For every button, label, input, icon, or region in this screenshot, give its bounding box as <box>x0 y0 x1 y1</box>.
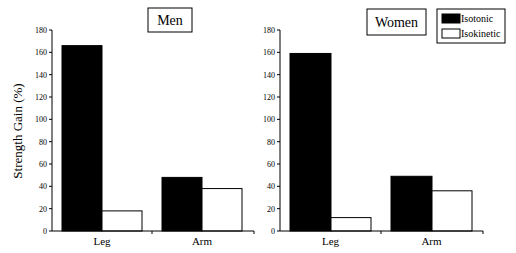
bar-leg-isokinetic <box>331 218 371 231</box>
chart-panel-men: LegArm020406080100120140160180Men <box>35 8 254 247</box>
y-tick-label: 60 <box>267 160 275 169</box>
bar-arm-isokinetic <box>432 191 472 231</box>
y-tick-label: 40 <box>267 182 275 191</box>
y-tick-label: 60 <box>39 160 47 169</box>
y-tick-label: 120 <box>263 93 275 102</box>
bar-arm-isotonic <box>391 176 432 231</box>
bar-leg-isotonic <box>290 53 331 231</box>
legend-label: Isotonic <box>461 13 494 24</box>
y-tick-label: 80 <box>39 138 47 147</box>
y-tick-label: 40 <box>39 182 47 191</box>
bar-charts: LegArm020406080100120140160180MenLegArm0… <box>0 0 516 253</box>
figure: LegArm020406080100120140160180MenLegArm0… <box>0 0 516 253</box>
legend-swatch-isotonic <box>442 14 460 23</box>
y-tick-label: 140 <box>263 71 275 80</box>
chart-title: Men <box>157 13 183 28</box>
bar-leg-isotonic <box>62 46 102 231</box>
y-tick-label: 80 <box>267 138 275 147</box>
legend-label: Isokinetic <box>461 28 501 39</box>
y-tick-label: 0 <box>271 227 275 236</box>
x-tick-label: Arm <box>192 235 213 247</box>
y-tick-label: 20 <box>39 205 47 214</box>
x-tick-label: Leg <box>93 235 111 247</box>
y-tick-label: 160 <box>35 48 47 57</box>
chart-title: Women <box>375 15 418 30</box>
y-tick-label: 180 <box>263 26 275 35</box>
legend-swatch-isokinetic <box>442 29 460 38</box>
bar-arm-isokinetic <box>202 189 242 231</box>
x-tick-label: Leg <box>322 235 340 247</box>
y-tick-label: 180 <box>35 26 47 35</box>
x-tick-label: Arm <box>421 235 442 247</box>
y-tick-label: 160 <box>263 48 275 57</box>
legend: IsotonicIsokinetic <box>437 9 505 43</box>
y-tick-label: 0 <box>43 227 47 236</box>
y-tick-label: 120 <box>35 93 47 102</box>
y-axis-label: Strength Gain (%) <box>10 83 25 178</box>
bar-leg-isokinetic <box>102 211 142 231</box>
y-tick-label: 100 <box>35 115 47 124</box>
bar-arm-isotonic <box>162 177 202 231</box>
y-tick-label: 140 <box>35 71 47 80</box>
y-tick-label: 100 <box>263 115 275 124</box>
y-tick-label: 20 <box>267 205 275 214</box>
chart-panel-women: LegArm020406080100120140160180Women <box>263 9 483 247</box>
